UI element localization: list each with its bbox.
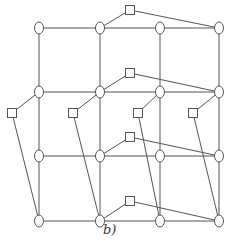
circle-node [215, 215, 224, 227]
edge [130, 10, 219, 28]
graph-canvas [0, 0, 225, 240]
square-node [126, 197, 135, 206]
square-node [69, 109, 78, 118]
lattice-diagram: b) [0, 0, 225, 240]
square-node [189, 109, 198, 118]
circle-node [35, 22, 44, 34]
square-node [126, 133, 135, 142]
square-node [8, 109, 17, 118]
edge [130, 73, 219, 92]
figure-label: b) [103, 222, 116, 237]
circle-node [156, 150, 165, 162]
edge [12, 113, 39, 221]
circle-node [96, 22, 105, 34]
circle-node [156, 22, 165, 34]
circle-node [156, 215, 165, 227]
circle-node [35, 86, 44, 98]
circle-node [35, 215, 44, 227]
edge [130, 201, 219, 221]
square-node [134, 109, 143, 118]
square-node [126, 6, 135, 15]
edge [193, 113, 219, 221]
circle-node [215, 150, 224, 162]
edge [73, 113, 100, 221]
circle-node [215, 86, 224, 98]
square-node [126, 69, 135, 78]
circle-node [215, 22, 224, 34]
circle-node [96, 86, 105, 98]
circle-node [96, 150, 105, 162]
circle-node [35, 150, 44, 162]
circle-node [156, 86, 165, 98]
